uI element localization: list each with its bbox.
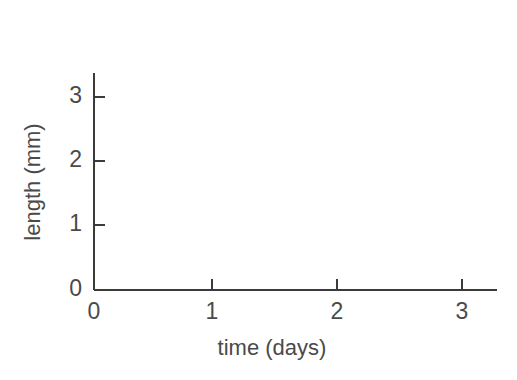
x-tick-label-3: 3 <box>456 298 469 324</box>
plot-canvas: 3 2 1 0 0 1 2 3 length (mm) time (days) <box>0 0 517 380</box>
y-tick-label-0: 0 <box>69 275 82 301</box>
y-tick-label-1: 1 <box>69 210 82 236</box>
x-tick-label-1: 1 <box>206 298 219 324</box>
y-tick-label-2: 2 <box>69 146 82 172</box>
chart-figure: 3 2 1 0 0 1 2 3 length (mm) time (days) <box>0 0 517 380</box>
x-tick-label-0: 0 <box>88 298 101 324</box>
x-tick-label-2: 2 <box>331 298 344 324</box>
y-tick-label-3: 3 <box>69 82 82 108</box>
x-axis-title: time (days) <box>218 335 327 360</box>
y-axis-title: length (mm) <box>20 123 45 240</box>
chart-background <box>0 0 517 380</box>
